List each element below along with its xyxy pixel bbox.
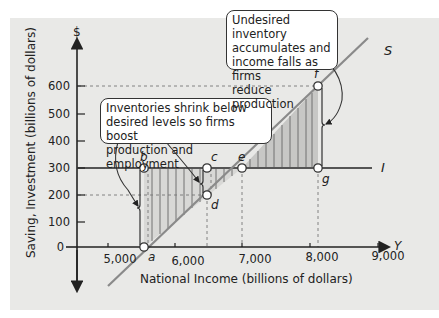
svg-text:0: 0 [57,240,64,254]
point-a [140,243,148,251]
point-g [314,164,322,172]
svg-text:600: 600 [48,79,70,93]
svg-text:100: 100 [48,215,70,229]
i-line-label: I [381,160,385,175]
svg-text:300: 300 [48,161,70,175]
callout-right-line-1: Undesired inventory [232,13,332,41]
callout-right-line-3: income falls as firms [232,55,332,83]
y-axis-title: Saving, Investment (billions of dollars) [24,27,38,258]
svg-text:a: a [148,250,155,264]
svg-text:500: 500 [48,107,70,121]
svg-text:5,000: 5,000 [104,252,137,266]
point-d [203,191,211,199]
dollar-symbol: $ [73,25,81,39]
callout-right-line-2: accumulates and [232,41,332,55]
svg-text:6,000: 6,000 [172,254,205,268]
callout-undesired-inventory: Undesired inventory accumulates and inco… [226,10,338,70]
callout-left-line-2: desired levels so firms boost [106,115,266,143]
svg-text:7,000: 7,000 [239,252,272,266]
svg-text:8,000: 8,000 [306,250,339,264]
s-line-label: S [384,43,392,58]
svg-text:g: g [322,172,330,186]
callout-right-line-4: reduce production [232,83,332,111]
callout-left-line-3: production and employment [106,143,266,171]
x-axis-title: National Income (billions of dollars) [140,272,353,286]
svg-text:400: 400 [48,134,70,148]
y-tick-labels: 600 500 400 300 200 100 0 [48,79,70,254]
svg-text:d: d [211,198,219,212]
y-ticks [77,86,85,222]
svg-text:200: 200 [48,188,70,202]
shaded-region-investment-exceeds-saving [144,168,242,247]
